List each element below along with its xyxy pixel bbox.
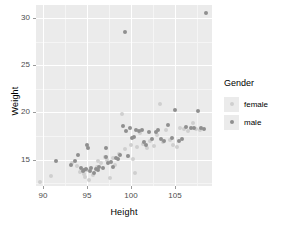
data-point bbox=[152, 144, 156, 148]
data-point bbox=[196, 109, 200, 113]
data-point bbox=[166, 123, 170, 127]
y-tick-mark bbox=[33, 18, 36, 19]
legend-key-swatch bbox=[224, 97, 239, 112]
x-tick-mark bbox=[43, 186, 44, 189]
legend-item-female[interactable]: female bbox=[224, 95, 285, 113]
data-point bbox=[145, 146, 149, 150]
y-tick-mark bbox=[33, 112, 36, 113]
data-point bbox=[132, 135, 136, 139]
data-point bbox=[204, 11, 208, 15]
x-tick-label: 100 bbox=[116, 191, 146, 200]
gridline-minor-horizontal bbox=[36, 42, 212, 43]
data-point bbox=[170, 136, 174, 140]
data-point bbox=[135, 145, 139, 149]
gridline-major-horizontal bbox=[36, 160, 212, 161]
data-point bbox=[173, 108, 177, 112]
plot-panel bbox=[36, 5, 212, 186]
data-point bbox=[140, 128, 144, 132]
gridline-major-horizontal bbox=[36, 18, 212, 19]
data-point bbox=[121, 124, 125, 128]
x-tick-mark bbox=[87, 186, 88, 189]
legend-key-swatch bbox=[224, 115, 239, 130]
data-point bbox=[123, 30, 127, 34]
y-tick-label: 30 bbox=[3, 13, 30, 22]
data-point bbox=[158, 102, 162, 106]
gridline-minor-horizontal bbox=[36, 183, 212, 184]
data-point bbox=[129, 143, 133, 147]
data-point bbox=[49, 174, 53, 178]
data-point bbox=[164, 128, 168, 132]
x-axis-title: Height bbox=[36, 207, 212, 217]
scatter-plot: Weight Height Gender femalemale 90951001… bbox=[0, 0, 285, 226]
data-point bbox=[92, 171, 96, 175]
y-tick-label: 25 bbox=[3, 60, 30, 69]
gridline-minor-horizontal bbox=[36, 136, 212, 137]
data-point bbox=[69, 163, 73, 167]
data-point bbox=[147, 130, 151, 134]
x-tick-label: 90 bbox=[28, 191, 58, 200]
legend-dot-icon bbox=[230, 120, 234, 124]
data-point bbox=[87, 178, 91, 182]
data-point bbox=[108, 176, 112, 180]
legend-item-label: male bbox=[244, 118, 261, 127]
x-tick-label: 105 bbox=[160, 191, 190, 200]
legend: Gender femalemale bbox=[224, 78, 285, 131]
data-point bbox=[126, 154, 130, 158]
x-tick-label: 95 bbox=[72, 191, 102, 200]
data-point bbox=[124, 129, 128, 133]
data-point bbox=[191, 121, 195, 125]
data-point bbox=[123, 147, 127, 151]
y-tick-label: 15 bbox=[3, 155, 30, 164]
data-point bbox=[162, 139, 166, 143]
data-point bbox=[76, 153, 80, 157]
data-point bbox=[86, 146, 90, 150]
legend-items: femalemale bbox=[224, 95, 285, 131]
data-point bbox=[116, 157, 120, 161]
legend-dot-icon bbox=[230, 102, 234, 106]
y-tick-mark bbox=[33, 65, 36, 66]
data-point bbox=[120, 112, 124, 116]
legend-item-label: female bbox=[244, 100, 268, 109]
gridline-major-horizontal bbox=[36, 65, 212, 66]
data-point bbox=[131, 157, 135, 161]
data-point bbox=[180, 137, 184, 141]
data-point bbox=[101, 166, 105, 170]
data-point bbox=[133, 171, 137, 175]
data-point bbox=[184, 125, 188, 129]
data-point bbox=[150, 137, 154, 141]
x-tick-mark bbox=[131, 186, 132, 189]
data-point bbox=[175, 145, 179, 149]
data-point bbox=[202, 127, 206, 131]
data-point bbox=[89, 166, 93, 170]
x-tick-mark bbox=[175, 186, 176, 189]
gridline-minor-horizontal bbox=[36, 89, 212, 90]
legend-item-male[interactable]: male bbox=[224, 113, 285, 131]
data-point bbox=[118, 153, 122, 157]
y-axis-title: Weight bbox=[10, 71, 20, 131]
data-point bbox=[104, 146, 108, 150]
legend-title: Gender bbox=[224, 78, 285, 88]
data-point bbox=[73, 159, 77, 163]
data-point bbox=[111, 165, 115, 169]
data-point bbox=[109, 160, 113, 164]
data-point bbox=[54, 159, 58, 163]
data-point bbox=[156, 128, 160, 132]
data-point bbox=[144, 143, 148, 147]
data-point bbox=[38, 180, 42, 184]
y-tick-label: 20 bbox=[3, 107, 30, 116]
y-tick-mark bbox=[33, 160, 36, 161]
